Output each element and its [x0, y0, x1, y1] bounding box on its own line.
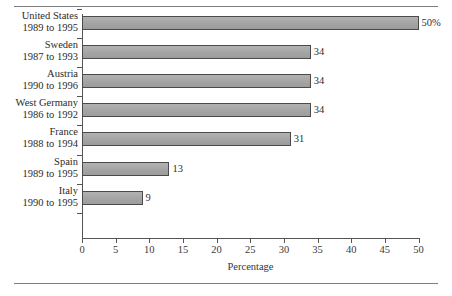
category-name: France: [0, 126, 78, 138]
x-axis-tick: [250, 238, 251, 243]
x-axis-tick-label: 25: [237, 244, 263, 256]
bar: [82, 132, 291, 146]
bar-value-label: 34: [314, 103, 325, 117]
category-years: 1989 to 1995: [0, 168, 78, 180]
y-axis-category-label: United States1989 to 1995: [0, 10, 78, 33]
bar: [82, 103, 311, 117]
chart-page: United States1989 to 1995Sweden1987 to 1…: [0, 0, 452, 296]
category-years: 1990 to 1996: [0, 80, 78, 92]
x-axis-tick-label: 20: [204, 244, 230, 256]
x-axis-tick: [385, 238, 386, 243]
y-axis-category-label: Sweden1987 to 1993: [0, 39, 78, 62]
category-name: Sweden: [0, 39, 78, 51]
bar-chart-plot: United States1989 to 1995Sweden1987 to 1…: [0, 0, 452, 296]
x-axis-tick-label: 35: [305, 244, 331, 256]
bar-value-label: 31: [294, 132, 305, 146]
bar: [82, 16, 419, 30]
category-name: Austria: [0, 68, 78, 80]
bar-value-label: 34: [314, 45, 325, 59]
x-axis-tick: [284, 238, 285, 243]
x-axis-tick-label: 40: [338, 244, 364, 256]
x-axis-tick: [351, 238, 352, 243]
y-axis-category-label: Spain1989 to 1995: [0, 156, 78, 179]
category-years: 1988 to 1994: [0, 138, 78, 150]
bar-value-label: 13: [172, 162, 183, 176]
category-years: 1989 to 1995: [0, 22, 78, 34]
category-years: 1987 to 1993: [0, 51, 78, 63]
x-axis-tick: [183, 238, 184, 243]
bar: [82, 74, 311, 88]
x-axis-tick-label: 30: [271, 244, 297, 256]
x-axis-tick: [116, 238, 117, 243]
category-years: 1986 to 1992: [0, 109, 78, 121]
x-axis-tick-label: 5: [103, 244, 129, 256]
y-axis-category-label: Austria1990 to 1996: [0, 68, 78, 91]
category-name: West Germany: [0, 97, 78, 109]
x-axis-tick-label: 45: [372, 244, 398, 256]
x-axis-title: Percentage: [82, 261, 419, 272]
bar: [82, 191, 143, 205]
x-axis-tick: [419, 238, 420, 243]
x-axis-tick: [82, 238, 83, 243]
category-years: 1990 to 1995: [0, 197, 78, 209]
y-axis-category-label: West Germany1986 to 1992: [0, 97, 78, 120]
bar: [82, 162, 169, 176]
x-axis-tick-label: 15: [170, 244, 196, 256]
y-axis-tick: [77, 213, 82, 214]
x-axis-tick-label: 50: [406, 244, 432, 256]
bar-value-label: 9: [146, 191, 151, 205]
bar-value-label: 50%: [422, 16, 441, 30]
category-name: Italy: [0, 185, 78, 197]
bar-value-label: 34: [314, 74, 325, 88]
x-axis-tick: [149, 238, 150, 243]
category-name: United States: [0, 10, 78, 22]
bar: [82, 45, 311, 59]
category-name: Spain: [0, 156, 78, 168]
x-axis-tick: [318, 238, 319, 243]
x-axis-tick: [217, 238, 218, 243]
y-axis-category-label: France1988 to 1994: [0, 126, 78, 149]
x-axis-tick-label: 10: [136, 244, 162, 256]
y-axis-category-label: Italy1990 to 1995: [0, 185, 78, 208]
x-axis-tick-label: 0: [69, 244, 95, 256]
